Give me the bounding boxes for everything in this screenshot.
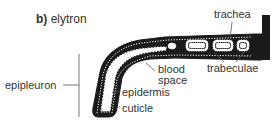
elytron-diagram: b) elytron trachea blood space trabecula…	[0, 0, 280, 128]
label-cuticle: cuticle	[122, 103, 153, 114]
label-epipleuron: epipleuron	[5, 80, 56, 91]
figure-panel-letter: b)	[36, 12, 47, 26]
figure-title-text: elytron	[51, 12, 87, 26]
label-trachea: trachea	[214, 9, 251, 20]
label-space: space	[158, 74, 187, 86]
label-blood-space: blood space	[158, 64, 187, 86]
blood-space-leader	[146, 63, 155, 71]
attachment-bar	[262, 15, 270, 60]
label-trabeculae: trabeculae	[207, 63, 258, 74]
figure-title: b) elytron	[36, 12, 87, 26]
blood-space-circle	[168, 43, 176, 49]
label-epidermis: epidermis	[122, 87, 170, 98]
